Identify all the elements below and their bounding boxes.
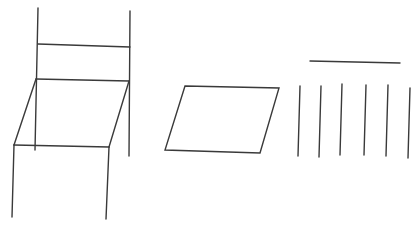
seat-back-edge [36, 79, 129, 81]
seat-right-edge [109, 81, 129, 147]
backrest-bar [38, 44, 130, 47]
vertical-line-2 [319, 86, 321, 157]
vertical-line-6 [408, 88, 410, 158]
back-post-right [129, 11, 130, 156]
drawing-canvas [0, 0, 420, 231]
vertical-line-1 [298, 86, 300, 156]
vertical-line-3 [340, 84, 342, 155]
front-leg-left [12, 145, 14, 217]
vertical-line-4 [364, 85, 366, 155]
parallelogram-figure [165, 86, 279, 153]
front-leg-right [106, 147, 109, 219]
seat-left-edge [14, 79, 36, 145]
top-bar [310, 61, 400, 63]
parallelogram-shape [165, 86, 279, 153]
bars-figure [298, 61, 410, 158]
chair-figure [12, 8, 130, 219]
vertical-line-5 [386, 85, 388, 156]
seat-front-edge [14, 145, 109, 147]
